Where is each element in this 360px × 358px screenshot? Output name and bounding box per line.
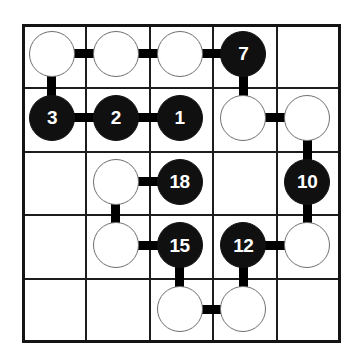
grid-outer-border bbox=[22, 24, 341, 343]
puzzle-board[interactable]: 732118101512 bbox=[22, 24, 341, 343]
puzzle-root: 732118101512 bbox=[0, 0, 360, 358]
